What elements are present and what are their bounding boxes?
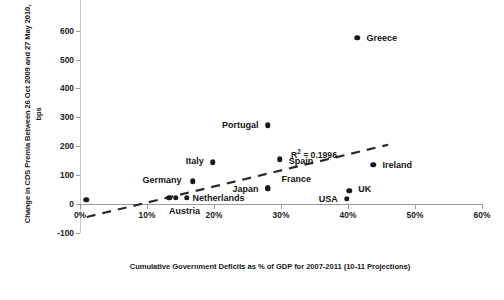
x-axis-tick-label: 60% (474, 210, 491, 220)
x-axis-tick (214, 204, 215, 209)
data-point-france (265, 185, 271, 191)
point-label-portugal: Portugal (222, 120, 259, 130)
point-label-ireland: Ireland (382, 160, 412, 170)
y-axis-tick (76, 233, 80, 234)
y-axis-tick (76, 204, 80, 205)
y-axis-tick (76, 88, 80, 89)
point-label-france: France (282, 174, 312, 184)
y-axis-tick-label: 400 (48, 83, 74, 93)
x-axis-tick-label: 40% (340, 210, 357, 220)
scatter-chart: Change in CDS Premia Between 26 Oct 2009… (0, 0, 504, 300)
data-point-usa (344, 196, 350, 202)
x-axis-tick (80, 204, 81, 209)
point-label-usa: USA (319, 194, 338, 204)
plot-area: R2 = 0.1996 0%10%20%30%40%50%60%GreecePo… (80, 0, 482, 233)
data-point-germany (190, 179, 196, 185)
x-axis-tick-label: 50% (407, 210, 424, 220)
y-axis-line (80, 0, 81, 233)
y-axis-tick-label: 100 (48, 170, 74, 180)
x-axis-title: Cumulative Government Deficits as % of G… (40, 262, 500, 271)
point-label-italy: Italy (186, 156, 204, 166)
data-point-austria (166, 195, 172, 201)
point-label-greece: Greece (366, 33, 397, 43)
x-axis-tick-label: 10% (139, 210, 156, 220)
y-axis-tick-label: -100 (48, 228, 74, 238)
data-point-greece (355, 35, 361, 41)
x-axis-tick (147, 204, 148, 209)
data-point-spain (277, 156, 283, 162)
data-point-uk (347, 188, 353, 194)
y-axis-tick-label: 600 (48, 26, 74, 36)
data-point-netherlands (184, 195, 190, 201)
y-axis-tick (76, 146, 80, 147)
y-axis-tick (76, 31, 80, 32)
y-axis-tick (76, 175, 80, 176)
y-axis-tick (76, 60, 80, 61)
x-axis-tick-label: 20% (206, 210, 223, 220)
point-label-spain: Spain (289, 156, 314, 166)
point-label-uk: UK (358, 184, 371, 194)
data-point-ireland (371, 162, 377, 168)
y-axis-tick-label: 500 (48, 55, 74, 65)
data-point (173, 195, 179, 201)
point-label-netherlands: Netherlands (193, 193, 245, 203)
trendline (80, 0, 482, 233)
data-point (83, 197, 89, 203)
point-label-germany: Germany (143, 175, 182, 185)
point-label-austria: Austria (169, 206, 200, 216)
x-axis-tick (415, 204, 416, 209)
x-axis-tick (482, 204, 483, 209)
x-axis-tick-label: 0% (74, 210, 86, 220)
x-axis-tick (281, 204, 282, 209)
x-axis-tick (348, 204, 349, 209)
data-point-italy (210, 159, 216, 165)
y-axis-tick-label: 200 (48, 141, 74, 151)
y-axis-title: Change in CDS Premia Between 26 Oct 2009… (22, 4, 44, 224)
y-axis-tick-label: 300 (48, 112, 74, 122)
y-axis-tick-label: 0 (48, 199, 74, 209)
data-point-portugal (265, 123, 271, 129)
x-axis-tick-label: 30% (273, 210, 290, 220)
y-axis-tick (76, 117, 80, 118)
